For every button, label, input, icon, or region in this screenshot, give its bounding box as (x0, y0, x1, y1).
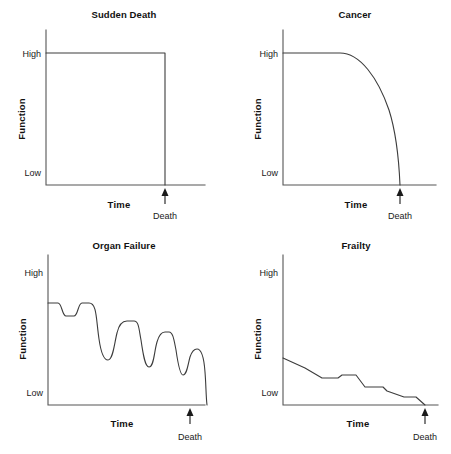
panel-title: Cancer (339, 9, 372, 20)
trajectory-line-organ-failure (48, 303, 207, 405)
death-annotation-label: Death (178, 432, 202, 442)
death-annotation-label: Death (388, 211, 412, 221)
y-tick-low-label: Low (26, 388, 43, 398)
x-axis-label: Time (345, 199, 368, 210)
x-axis-label: Time (108, 199, 131, 210)
panel-title: Sudden Death (91, 9, 156, 20)
trajectory-line-cancer (283, 53, 400, 185)
up-arrow-icon (187, 408, 194, 424)
chart-panel-cancer: Cancer High Low Function Time Death (226, 0, 451, 227)
chart-panel-sudden-death: Sudden Death High Low Function Time Deat… (0, 0, 225, 227)
y-tick-high-label: High (259, 49, 278, 59)
x-axis-label: Time (347, 418, 370, 429)
y-axis-label: Function (252, 98, 263, 140)
death-annotation-label: Death (413, 432, 437, 442)
chart-panel-frailty: Frailty High Low Function Time Death (226, 227, 451, 454)
panel-title: Organ Failure (92, 240, 155, 251)
x-axis-label: Time (111, 418, 134, 429)
up-arrow-icon (397, 188, 404, 204)
axes (48, 255, 205, 405)
chart-panel-organ-failure: Organ Failure High Low Function Time Dea… (0, 227, 225, 454)
axes (283, 255, 438, 405)
y-tick-low-label: Low (24, 168, 41, 178)
y-axis-label: Function (16, 98, 27, 140)
y-tick-low-label: Low (261, 168, 278, 178)
y-tick-high-label: High (24, 268, 43, 278)
trajectory-line-sudden-death (46, 53, 165, 185)
y-tick-high-label: High (22, 49, 41, 59)
panel-title: Frailty (341, 240, 371, 251)
y-tick-low-label: Low (261, 388, 278, 398)
up-arrow-icon (422, 408, 429, 424)
up-arrow-icon (162, 188, 169, 204)
y-axis-label: Function (17, 318, 28, 360)
y-tick-high-label: High (259, 268, 278, 278)
y-axis-label: Function (252, 318, 263, 360)
trajectory-line-frailty (283, 358, 425, 405)
illness-trajectory-figure: Sudden Death High Low Function Time Deat… (0, 0, 451, 454)
death-annotation-label: Death (153, 211, 177, 221)
